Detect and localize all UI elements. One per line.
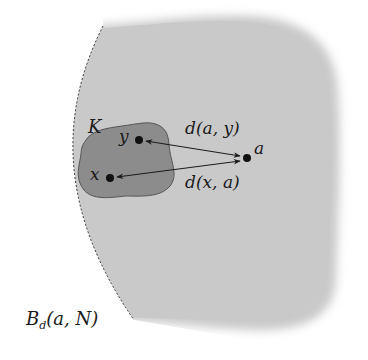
ball-label-main: B [26, 308, 39, 329]
point-y-label: y [119, 128, 129, 145]
point-a [243, 154, 251, 162]
point-a-label: a [254, 140, 264, 157]
point-x [106, 174, 114, 182]
set-k-label: K [88, 118, 101, 136]
point-x-label: x [90, 166, 100, 183]
ball-label-args: (a, N) [46, 308, 98, 329]
distance-a-y-label: d(a, y) [185, 120, 240, 137]
diagram-canvas: K y x a d(a, y) d(x, a) Bd(a, N) [0, 0, 368, 360]
ball-label: Bd(a, N) [26, 310, 98, 331]
point-y [135, 136, 143, 144]
distance-x-a-label: d(x, a) [185, 174, 240, 191]
diagram-svg [0, 0, 368, 360]
